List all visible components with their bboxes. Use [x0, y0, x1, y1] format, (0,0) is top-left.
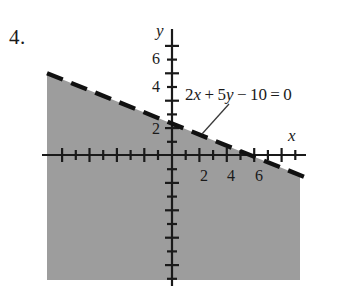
y-tick-label-4: 4 — [152, 79, 160, 95]
equation-coef-y: 5 — [217, 85, 226, 104]
equation-constant: 10 — [250, 85, 267, 104]
equation-plus: + — [204, 85, 214, 104]
y-tick-label-6: 6 — [152, 51, 160, 67]
x-tick-label-4: 4 — [227, 168, 235, 184]
x-tick-label-2: 2 — [200, 168, 208, 184]
equation-annotation: 2x + 5y − 10 = 0 — [185, 86, 292, 103]
equation-var-y: y — [226, 85, 234, 104]
x-tick-label-6: 6 — [255, 168, 263, 184]
annotation-leader-line — [202, 104, 229, 134]
equation-rhs: 0 — [283, 85, 292, 104]
equation-minus: − — [237, 85, 247, 104]
equation-var-x: x — [194, 85, 202, 104]
figure-screenshot: 4. y x 6 4 2 2 4 6 2x + 5y − 10 = 0 — [0, 0, 347, 296]
y-tick-label-2: 2 — [152, 121, 160, 137]
equation-coef-x: 2 — [185, 85, 194, 104]
y-axis-label: y — [156, 22, 164, 39]
equation-equals: = — [270, 85, 280, 104]
problem-number: 4. — [9, 27, 26, 48]
coordinate-plane-graph — [0, 0, 347, 296]
x-axis-label: x — [288, 127, 296, 144]
